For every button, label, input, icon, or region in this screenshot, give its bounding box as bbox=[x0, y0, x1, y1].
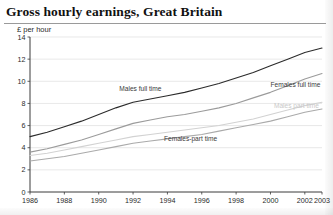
x-tick-label: 1994 bbox=[159, 196, 175, 205]
x-tick-label: 1990 bbox=[91, 196, 107, 205]
series-label: Males full time bbox=[119, 85, 161, 92]
y-tick-label: 12 bbox=[18, 55, 26, 64]
x-tick-label: 2003 bbox=[314, 196, 330, 205]
x-tick-label: 1986 bbox=[22, 196, 38, 205]
y-tick-label: 6 bbox=[22, 121, 26, 130]
x-tick-label: 1996 bbox=[194, 196, 210, 205]
chart-plot-area: 02468101214 1986198819901992199419961998… bbox=[0, 0, 333, 215]
x-tick-label: 1998 bbox=[228, 196, 244, 205]
y-tick-label: 2 bbox=[22, 165, 26, 174]
x-tick-label: 1988 bbox=[56, 196, 72, 205]
y-axis-ticks-group: 02468101214 bbox=[18, 33, 31, 197]
x-tick-label: 2000 bbox=[262, 196, 278, 205]
line-chart-svg: 02468101214 1986198819901992199419961998… bbox=[0, 0, 333, 215]
series-annotations-group: Males full timeFemales full timeMales pa… bbox=[119, 81, 320, 143]
y-tick-label: 14 bbox=[18, 33, 26, 42]
x-tick-label: 2002 bbox=[297, 196, 313, 205]
y-tick-label: 10 bbox=[18, 77, 26, 86]
series-label: Females-part time bbox=[164, 135, 217, 143]
series-line bbox=[30, 48, 322, 137]
y-tick-label: 8 bbox=[22, 99, 26, 108]
series-label: Males part time bbox=[274, 102, 319, 110]
x-tick-label: 1992 bbox=[125, 196, 141, 205]
y-tick-label: 4 bbox=[22, 143, 26, 152]
x-axis-ticks-group: 1986198819901992199419961998200020022003 bbox=[22, 192, 330, 205]
series-label: Females full time bbox=[270, 81, 320, 88]
